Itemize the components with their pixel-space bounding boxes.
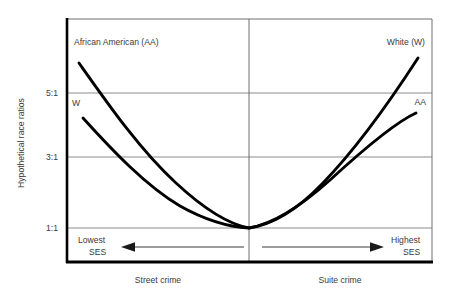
series-label-african-american-right: AA <box>415 97 427 107</box>
series-label-white: White (W) <box>387 37 425 47</box>
series-label-african-american: African American (AA) <box>74 37 159 47</box>
chart-figure: 5:1 3:1 1:1 Hypothetical race ratios Afr… <box>0 0 452 299</box>
ytick-label-5to1: 5:1 <box>46 88 58 98</box>
ytick-label-3to1: 3:1 <box>46 152 58 162</box>
ytick-label-1to1: 1:1 <box>46 223 58 233</box>
annotation-lowest-ses-line1: Lowest <box>78 235 106 245</box>
annotation-highest-ses-line2: SES <box>403 247 420 257</box>
annotation-lowest-ses-line2: SES <box>89 247 106 257</box>
race-ratio-curve-chart: 5:1 3:1 1:1 Hypothetical race ratios Afr… <box>0 0 452 299</box>
x-axis-label-suite-crime: Suite crime <box>319 275 362 285</box>
y-axis-title: Hypothetical race ratios <box>16 98 26 188</box>
x-axis-label-street-crime: Street crime <box>135 275 182 285</box>
series-label-white-left: W <box>72 98 81 108</box>
annotation-highest-ses-line1: Highest <box>391 235 421 245</box>
